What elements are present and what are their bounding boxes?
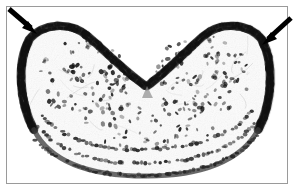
micrograph-image <box>7 7 287 183</box>
micrograph-figure: transverse tissue section with bilobed e… <box>0 0 298 193</box>
micrograph-frame <box>6 6 288 184</box>
